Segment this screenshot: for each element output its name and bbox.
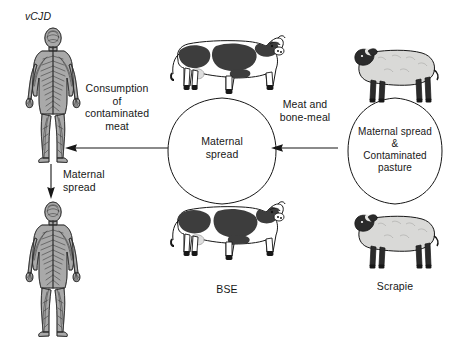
label-scrapie: Scrapie <box>355 280 435 293</box>
holstein-cow-bottom <box>166 190 288 278</box>
label-meat-and-bone-meal: Meat and bone-meal <box>266 98 344 123</box>
diagram-canvas: vCJD <box>0 0 455 351</box>
suffolk-sheep-top <box>344 30 448 110</box>
arrow-cattle-to-human <box>62 138 170 158</box>
label-vcjd: vCJD <box>25 10 85 23</box>
label-bse: BSE <box>185 283 269 296</box>
label-human-maternal-spread: Maternal spread <box>63 168 129 193</box>
label-sheep-maternal-spread: Maternal spread & Contaminated pasture <box>351 126 439 174</box>
human-nervous-system-figure-bottom <box>18 200 88 340</box>
arrow-human-maternal-spread <box>42 164 60 200</box>
suffolk-sheep-bottom <box>344 196 448 276</box>
label-cattle-maternal-spread: Maternal spread <box>182 135 262 160</box>
label-consumption-contaminated-meat: Consumption of contaminated meat <box>71 82 163 132</box>
arrow-sheep-to-cattle <box>268 138 340 158</box>
